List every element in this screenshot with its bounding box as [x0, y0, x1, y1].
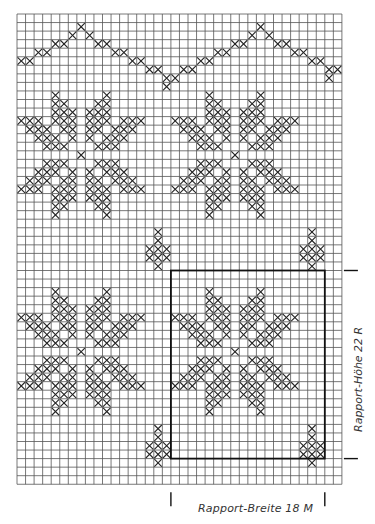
rapport-height-label: Rapport-Höhe 22 R: [352, 327, 365, 432]
grid: [17, 14, 342, 484]
rapport-width-label: Rapport-Breite 18 M: [198, 502, 313, 515]
knitting-chart: [0, 0, 375, 524]
